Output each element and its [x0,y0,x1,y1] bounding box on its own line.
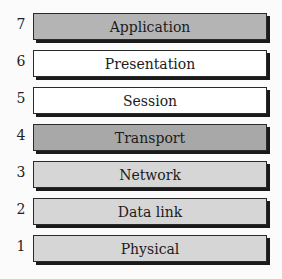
layer-box-data-link: Data link [33,198,267,225]
layer-7: 7 Application [0,13,282,40]
layer-5: 5 Session [0,87,282,114]
layer-box-transport: Transport [33,124,267,151]
layer-1: 1 Physical [0,235,282,262]
layer-3: 3 Network [0,161,282,188]
layer-box-application: Application [33,13,267,40]
layer-box-physical: Physical [33,235,267,262]
layer-box-network: Network [33,161,267,188]
layer-4: 4 Transport [0,124,282,151]
layer-number: 4 [14,127,28,143]
layer-number: 7 [14,16,28,32]
layer-number: 1 [14,238,28,254]
layer-box-session: Session [33,87,267,114]
layer-2: 2 Data link [0,198,282,225]
layer-number: 2 [14,201,28,217]
layer-number: 3 [14,164,28,180]
layer-number: 5 [14,90,28,106]
layer-number: 6 [14,53,28,69]
layer-6: 6 Presentation [0,50,282,77]
layer-box-presentation: Presentation [33,50,267,77]
